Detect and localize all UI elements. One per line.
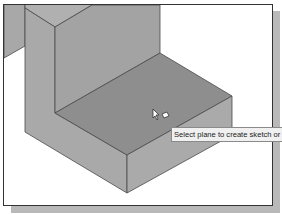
panel-shadow-right (273, 11, 280, 213)
panel-shadow-bottom (11, 206, 280, 213)
3d-model[interactable] (3, 4, 273, 206)
left-flange-face[interactable] (4, 4, 25, 58)
select-plane-cursor-icon (152, 107, 170, 125)
tooltip: Select plane to create sketch or (171, 127, 282, 142)
graphics-viewport[interactable] (3, 4, 273, 206)
